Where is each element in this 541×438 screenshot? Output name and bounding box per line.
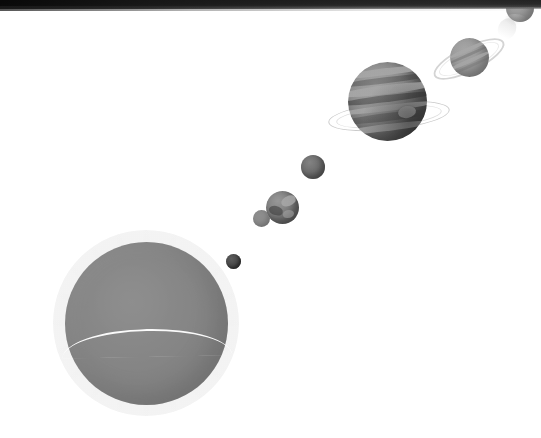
planet-saturn bbox=[430, 22, 508, 96]
jupiter-shading bbox=[348, 62, 427, 141]
scan-edge-taper bbox=[0, 6, 541, 11]
earth-landmass bbox=[269, 204, 284, 215]
sun bbox=[48, 225, 244, 421]
halftone-texture bbox=[226, 254, 241, 269]
planet-mars bbox=[301, 155, 325, 179]
solar-system-illustration bbox=[0, 0, 541, 438]
jupiter-disc bbox=[348, 62, 427, 141]
halftone-texture bbox=[65, 242, 228, 405]
earth-landmass bbox=[283, 210, 294, 218]
sun-disc bbox=[65, 242, 228, 405]
neptune-shadow bbox=[503, 14, 527, 26]
saturn-disc bbox=[450, 38, 489, 77]
halftone-texture bbox=[301, 155, 325, 179]
planet-earth bbox=[266, 191, 299, 224]
planet-mercury bbox=[226, 254, 241, 269]
earth-landmass bbox=[279, 194, 296, 208]
